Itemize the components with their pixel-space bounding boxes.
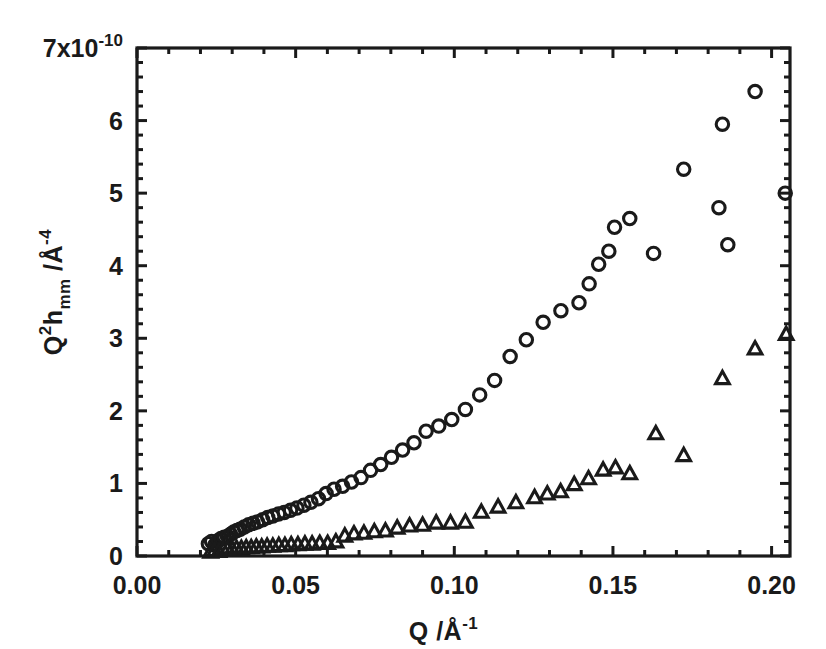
- x-tick-label: 0.10: [430, 571, 479, 599]
- data-point-circle: [678, 163, 690, 175]
- y-axis-title: Q2hmm /Å-4: [36, 229, 74, 356]
- data-point-triangle: [444, 516, 458, 528]
- data-point-circle: [504, 350, 516, 362]
- data-point-triangle: [582, 472, 596, 484]
- data-point-triangle: [677, 448, 691, 460]
- data-point-circle: [647, 247, 659, 259]
- x-tick-label: 0.20: [747, 571, 796, 599]
- data-point-triangle: [716, 371, 730, 383]
- data-point-triangle: [748, 342, 762, 354]
- data-point-triangle: [429, 516, 443, 528]
- data-point-circle: [749, 85, 761, 97]
- data-point-circle: [459, 403, 471, 415]
- data-point-circle: [722, 238, 734, 250]
- x-tick-label: 0.15: [589, 571, 638, 599]
- data-point-circle: [603, 245, 615, 257]
- data-point-triangle: [509, 495, 523, 507]
- y-tick-label: 5: [109, 179, 123, 207]
- data-point-circle: [520, 334, 532, 346]
- data-point-triangle: [474, 505, 488, 517]
- data-point-triangle: [567, 477, 581, 489]
- y-tick-label: 0: [109, 542, 123, 570]
- data-point-triangle: [609, 461, 623, 473]
- data-point-triangle: [491, 500, 505, 512]
- data-point-circle: [420, 425, 432, 437]
- data-point-circle: [473, 389, 485, 401]
- data-point-circle: [573, 297, 585, 309]
- data-point-triangle: [459, 515, 473, 527]
- data-point-triangle: [623, 466, 637, 478]
- data-point-triangle: [528, 490, 542, 502]
- x-tick-label: 0.00: [113, 571, 162, 599]
- data-point-circle: [408, 437, 420, 449]
- x-tick-label: 0.05: [271, 571, 320, 599]
- data-point-circle: [716, 118, 728, 130]
- data-point-circle: [433, 420, 445, 432]
- data-point-triangle: [403, 519, 417, 531]
- data-point-circle: [713, 201, 725, 213]
- series-triangles: [204, 327, 793, 557]
- x-axis-title: Q /Å-1: [409, 614, 479, 645]
- y-tick-label: 4: [109, 252, 123, 280]
- y-tick-label: 6: [109, 107, 123, 135]
- data-point-circle: [608, 221, 620, 233]
- data-point-circle: [488, 374, 500, 386]
- data-point-circle: [446, 413, 458, 425]
- data-point-triangle: [416, 518, 430, 530]
- data-point-circle: [583, 278, 595, 290]
- data-point-circle: [592, 258, 604, 270]
- data-point-circle: [555, 305, 567, 317]
- data-point-triangle: [649, 427, 663, 439]
- y-exponent-label: 7x10-10: [43, 31, 123, 62]
- data-point-circle: [537, 316, 549, 328]
- plot-frame: [137, 48, 790, 556]
- scatter-chart: 0.000.050.100.150.2001234567x10-10Q /Å-1…: [0, 0, 826, 649]
- y-tick-label: 3: [109, 324, 123, 352]
- y-tick-label: 1: [109, 469, 123, 497]
- data-point-circle: [624, 212, 636, 224]
- figure-container: 0.000.050.100.150.2001234567x10-10Q /Å-1…: [0, 0, 826, 649]
- y-tick-label: 2: [109, 397, 123, 425]
- series-circles: [202, 85, 791, 551]
